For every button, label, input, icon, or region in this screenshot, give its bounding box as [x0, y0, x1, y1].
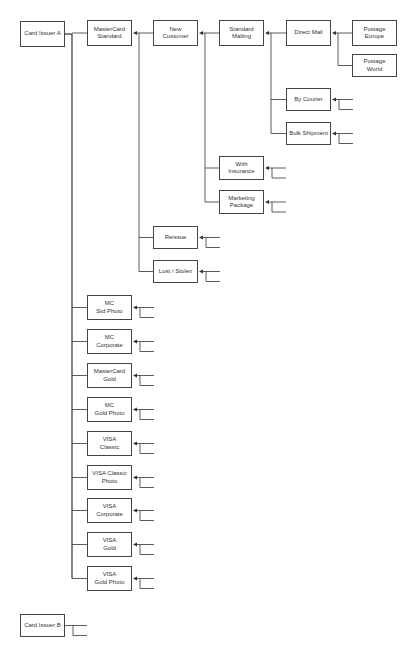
node-label: MasterCard — [94, 26, 125, 34]
node-bulk-shipment[interactable]: Bulk Shipment — [286, 122, 331, 145]
node-label: New — [162, 26, 188, 34]
node-card-issuer-b[interactable]: Card Issuer B — [20, 614, 65, 637]
node-label: Postage — [363, 26, 385, 34]
node-label: VISA — [96, 503, 123, 511]
node-label: Std Photo — [96, 308, 122, 316]
node-label: Standard — [229, 26, 253, 34]
node-label: Postage World — [355, 58, 394, 73]
node-label: Mailing — [229, 33, 253, 41]
node-label: VISA — [100, 436, 119, 444]
node-label: Customer — [162, 33, 188, 41]
node-label: Corporate — [96, 511, 123, 519]
node-label: Card Issuer A — [24, 30, 60, 38]
node-label: MasterCard — [94, 368, 125, 376]
node-label: VISA — [103, 537, 117, 545]
node-visa-classic[interactable]: VISAClassic — [87, 431, 132, 456]
node-label: By Courier — [294, 96, 322, 104]
node-label: VISA — [94, 571, 124, 579]
node-reissue[interactable]: Reissue — [153, 226, 198, 249]
node-marketing-package[interactable]: MarketingPackage — [219, 190, 264, 214]
node-label: Gold Photo — [94, 410, 124, 418]
node-postage-europe[interactable]: PostageEurope — [352, 20, 397, 46]
node-visa-gold[interactable]: VISAGold — [87, 532, 132, 557]
node-label: Standard — [94, 33, 125, 41]
tree-diagram: Card Issuer AMasterCardStandardNewCustom… — [0, 0, 415, 655]
node-label: Gold — [103, 545, 117, 553]
node-label: Classic — [100, 444, 119, 452]
node-label: Photo — [92, 478, 126, 486]
node-label: Gold Photo — [94, 579, 124, 587]
node-label: Corporate — [96, 342, 123, 350]
node-label: Package — [228, 202, 254, 210]
node-label: Lost / Stolen — [159, 268, 192, 276]
connector-lines — [0, 0, 415, 655]
node-mc-gold-photo[interactable]: MCGold Photo — [87, 397, 132, 422]
node-label: MC — [96, 300, 122, 308]
node-standard-mailing[interactable]: StandardMailing — [219, 20, 264, 46]
node-label: Insurance — [228, 168, 254, 176]
node-direct-mail[interactable]: Direct Mail — [286, 20, 331, 46]
node-mastercard-standard[interactable]: MasterCardStandard — [87, 20, 132, 46]
node-label: MC — [96, 334, 123, 342]
node-mc-std-photo[interactable]: MCStd Photo — [87, 295, 132, 320]
node-card-issuer-a[interactable]: Card Issuer A — [20, 21, 65, 47]
node-label: MC — [94, 402, 124, 410]
node-label: With — [228, 161, 254, 169]
node-with-insurance[interactable]: WithInsurance — [219, 156, 264, 180]
node-label: Direct Mail — [294, 29, 322, 37]
node-lost-stolen[interactable]: Lost / Stolen — [153, 260, 198, 283]
node-label: Europe — [363, 33, 385, 41]
node-label: Marketing — [228, 195, 254, 203]
node-label: Reissue — [165, 234, 187, 242]
node-by-courier[interactable]: By Courier — [286, 88, 331, 111]
node-label: Bulk Shipment — [289, 130, 328, 138]
node-new-customer[interactable]: NewCustomer — [153, 20, 198, 46]
node-label: VISA Classic — [92, 470, 126, 478]
node-mc-corporate[interactable]: MCCorporate — [87, 329, 132, 354]
node-label: Card Issuer B — [24, 622, 61, 630]
node-visa-classic-photo[interactable]: VISA ClassicPhoto — [87, 465, 132, 490]
node-postage-world[interactable]: Postage World — [352, 54, 397, 77]
node-mastercard-gold[interactable]: MasterCardGold — [87, 363, 132, 388]
node-label: Gold — [94, 376, 125, 384]
node-visa-corporate[interactable]: VISACorporate — [87, 498, 132, 523]
node-visa-gold-photo[interactable]: VISAGold Photo — [87, 566, 132, 591]
